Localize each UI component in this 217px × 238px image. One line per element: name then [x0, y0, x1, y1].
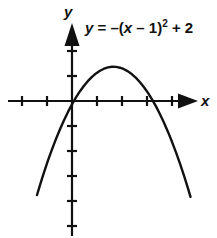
- equation-minus-sign: –: [110, 19, 118, 36]
- equation-inner-variable: x: [124, 19, 132, 36]
- x-axis-arrowhead: [178, 94, 198, 109]
- equation-annotation: y = –(x – 1)2 + 2: [85, 19, 193, 35]
- parabola-curve: [37, 67, 191, 197]
- equation-plus-term: + 2: [168, 19, 193, 36]
- parabola-graph-figure: y x y = –(x – 1)2 + 2: [0, 0, 217, 238]
- equation-inner-constant: 1: [149, 19, 157, 36]
- y-axis-label: y: [64, 4, 72, 19]
- x-axis-label: x: [201, 93, 209, 108]
- equation-equals: =: [93, 19, 110, 36]
- equation-inner-operator: –: [132, 19, 149, 36]
- y-axis-arrowhead: [65, 23, 80, 46]
